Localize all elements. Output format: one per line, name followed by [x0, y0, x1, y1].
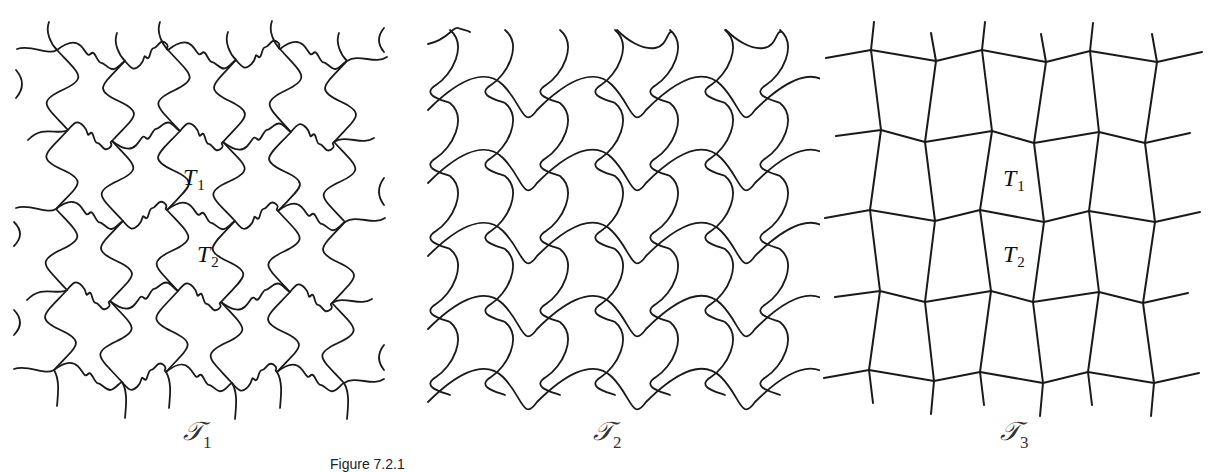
panel-caption-1: 𝒯1: [183, 418, 212, 451]
tile-edge: [14, 310, 20, 335]
tiling-panel-1: T1 T2 𝒯1: [0, 0, 410, 469]
tile-edge: [595, 30, 623, 395]
tile-edge: [980, 22, 992, 405]
tile-edge: [485, 30, 513, 395]
tiling-drawing-1: [0, 0, 410, 469]
tile-edge: [45, 22, 78, 406]
tile-edge: [28, 122, 374, 150]
tile-label-t1: T1: [183, 165, 205, 193]
tile-edge: [1033, 34, 1046, 416]
tile-edge: [650, 30, 678, 395]
tile-edge: [379, 178, 384, 205]
tile-label-t2: T2: [197, 242, 219, 270]
tile-edge: [836, 130, 1190, 143]
tile-edge: [428, 296, 820, 337]
tile-edge: [379, 345, 384, 370]
tile-label-t2: T2: [1003, 242, 1025, 270]
tile-edge: [1088, 23, 1099, 405]
panel-caption-2: 𝒯2: [593, 418, 622, 451]
tiling-panel-2: 𝒯2: [410, 0, 820, 469]
tile-edge: [835, 291, 1188, 303]
tile-edge: [156, 22, 189, 408]
tile-edge: [428, 369, 820, 410]
panel-caption-3: 𝒯3: [1000, 418, 1029, 451]
tile-edge: [428, 150, 820, 191]
tile-edge: [27, 282, 372, 311]
tile-edge: [14, 222, 20, 246]
tiling-drawing-2: [410, 0, 820, 469]
tile-edge: [268, 21, 301, 408]
tiling-panel-3: T1 T2 𝒯3: [820, 0, 1220, 469]
tile-edge: [1143, 34, 1157, 416]
tile-edge: [617, 30, 672, 48]
tile-edge: [428, 223, 820, 264]
figure-caption: Figure 7.2.1: [330, 456, 405, 472]
tile-edge: [760, 30, 788, 395]
tile-edge: [16, 70, 22, 98]
tile-edge: [17, 41, 387, 69]
tile-edge: [824, 370, 1199, 383]
tile-edge: [726, 30, 781, 48]
tile-edge: [825, 210, 1200, 222]
tile-edge: [428, 77, 820, 118]
tile-edge: [379, 28, 384, 52]
tile-edge: [540, 30, 568, 395]
tiling-drawing-3: [820, 0, 1220, 469]
tile-edge: [428, 28, 470, 44]
tile-edge: [705, 30, 733, 395]
tile-edge: [430, 30, 458, 395]
tile-edge: [826, 50, 1202, 62]
tile-label-t1: T1: [1003, 166, 1025, 194]
tile-edge: [925, 33, 936, 414]
